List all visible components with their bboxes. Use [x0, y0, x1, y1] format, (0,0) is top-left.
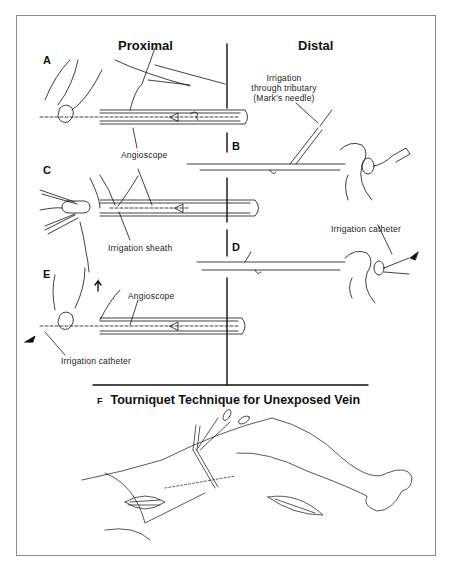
panel-b-drawing	[187, 110, 410, 200]
label-irrigation-catheter-e: Irrigation catheter	[61, 356, 131, 366]
panel-c-drawing	[40, 169, 259, 291]
panel-label-d: D	[232, 241, 240, 253]
panel-label-f: F	[97, 396, 103, 406]
panel-label-c: C	[43, 164, 51, 176]
faint-caption-area	[16, 560, 256, 568]
section-f-heading: FTourniquet Technique for Unexposed Vein	[97, 390, 360, 408]
label-irrigation-through-tributary: Irrigation through tributary (Mark's nee…	[228, 73, 340, 103]
label-line: Irrigation	[228, 73, 340, 83]
column-header-proximal: Proximal	[118, 38, 173, 53]
panel-d-drawing	[197, 225, 418, 303]
panel-a-drawing	[40, 48, 248, 124]
label-angioscope-c: Angioscope	[121, 150, 167, 160]
label-irrigation-catheter-d: Irrigation catheter	[331, 224, 401, 234]
column-header-distal: Distal	[298, 38, 333, 53]
label-irrigation-sheath: Irrigation sheath	[108, 243, 172, 253]
panel-label-a: A	[43, 54, 51, 66]
label-angioscope-e: Angioscope	[128, 291, 174, 301]
label-line: through tributary	[228, 83, 340, 93]
panel-label-b: B	[232, 140, 240, 152]
panel-f-leg-drawing	[82, 408, 412, 540]
panel-e-drawing	[25, 268, 245, 355]
label-line: (Mark's needle)	[228, 93, 340, 103]
section-f-title: Tourniquet Technique for Unexposed Vein	[111, 393, 361, 407]
panel-label-e: E	[43, 268, 50, 280]
